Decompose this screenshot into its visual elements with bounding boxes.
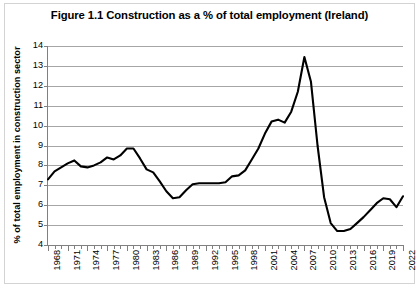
x-axis-tick-label: 2007	[308, 250, 318, 270]
x-axis-minor-tick	[74, 246, 75, 249]
x-axis-minor-tick	[81, 246, 82, 249]
x-axis-major-tick	[186, 246, 187, 251]
x-axis-major-tick	[383, 246, 384, 251]
x-axis-minor-tick	[239, 246, 240, 249]
x-axis-tick-label: 1977	[111, 250, 121, 270]
x-axis-tick-label: 2010	[328, 250, 338, 270]
x-axis-minor-tick	[160, 246, 161, 249]
y-axis-tick-label: 10	[13, 121, 43, 130]
x-axis-major-tick	[107, 246, 108, 251]
y-axis-tick-mark	[44, 146, 48, 147]
x-axis-major-tick	[48, 246, 49, 251]
y-axis-tick-mark	[44, 66, 48, 67]
x-axis-tick-label: 2013	[348, 250, 358, 270]
y-axis-tick-mark	[44, 185, 48, 186]
y-axis-tick-mark	[44, 126, 48, 127]
x-axis-tick-label: 1986	[170, 250, 180, 270]
x-axis-minor-tick	[173, 246, 174, 249]
x-axis-major-tick	[364, 246, 365, 251]
x-axis-major-tick	[226, 246, 227, 251]
y-axis-tick-mark	[44, 165, 48, 166]
x-axis-tick-label: 2019	[387, 250, 397, 270]
x-axis-major-tick	[304, 246, 305, 251]
x-axis-major-tick	[127, 246, 128, 251]
x-axis-tick-label: 1995	[230, 250, 240, 270]
x-axis-minor-tick	[193, 246, 194, 249]
y-axis-tick-label: 12	[13, 81, 43, 90]
x-axis-major-tick	[68, 246, 69, 251]
y-axis-tick-label: 14	[13, 41, 43, 50]
y-axis-tick-mark	[44, 86, 48, 87]
x-axis-minor-tick	[120, 246, 121, 249]
x-axis-minor-tick	[199, 246, 200, 249]
x-axis-minor-tick	[252, 246, 253, 249]
x-axis-tick-label: 2001	[269, 250, 279, 270]
x-axis-major-tick	[265, 246, 266, 251]
data-series-line	[48, 46, 403, 245]
x-axis-minor-tick	[331, 246, 332, 249]
y-axis-tick-label: 8	[13, 160, 43, 169]
x-axis-minor-tick	[133, 246, 134, 249]
x-axis-minor-tick	[140, 246, 141, 249]
y-axis-tick-label: 13	[13, 61, 43, 70]
x-axis-major-tick	[87, 246, 88, 251]
x-axis-minor-tick	[396, 246, 397, 249]
x-axis-tick-label: 1998	[249, 250, 259, 270]
x-axis-minor-tick	[219, 246, 220, 249]
x-axis-minor-tick	[212, 246, 213, 249]
x-axis-minor-tick	[179, 246, 180, 249]
y-axis-tick-mark	[44, 245, 48, 246]
x-axis-major-tick	[147, 246, 148, 251]
y-axis-tick-mark	[44, 46, 48, 47]
x-axis-tick-label: 2016	[368, 250, 378, 270]
chart-figure: Figure 1.1 Construction as a % of total …	[0, 0, 419, 289]
x-axis-tick-label: 1968	[52, 250, 62, 270]
x-axis-tick-label: 1971	[72, 250, 82, 270]
x-axis-minor-tick	[350, 246, 351, 249]
x-axis-tick-label: 1989	[190, 250, 200, 270]
x-axis-major-tick	[245, 246, 246, 251]
x-axis-major-tick	[324, 246, 325, 251]
y-axis-tick-label: 11	[13, 101, 43, 110]
x-axis-minor-tick	[291, 246, 292, 249]
x-axis-minor-tick	[61, 246, 62, 249]
y-axis-tick-label: 5	[13, 220, 43, 229]
x-axis-minor-tick	[311, 246, 312, 249]
x-axis-tick-label: 2004	[289, 250, 299, 270]
x-axis-minor-tick	[337, 246, 338, 249]
y-axis-tick-label: 7	[13, 180, 43, 189]
construction-employment-line	[48, 57, 403, 231]
x-axis-major-tick	[166, 246, 167, 251]
x-axis-minor-tick	[357, 246, 358, 249]
x-axis-major-tick	[206, 246, 207, 251]
y-axis-tick-label: 4	[13, 240, 43, 249]
x-axis-major-tick	[285, 246, 286, 251]
x-axis-tick-label: 1983	[151, 250, 161, 270]
x-axis-tick-label: 1980	[131, 250, 141, 270]
x-axis-minor-tick	[94, 246, 95, 249]
x-axis-minor-tick	[232, 246, 233, 249]
x-axis-minor-tick	[101, 246, 102, 249]
y-axis-tick-label: 6	[13, 200, 43, 209]
x-axis-minor-tick	[153, 246, 154, 249]
x-axis-tick-label: 1974	[91, 250, 101, 270]
y-axis-tick-mark	[44, 106, 48, 107]
x-axis-minor-tick	[377, 246, 378, 249]
y-axis-tick-mark	[44, 205, 48, 206]
x-axis-tick-label: 1992	[210, 250, 220, 270]
x-axis-minor-tick	[318, 246, 319, 249]
x-axis-minor-tick	[55, 246, 56, 249]
page-title: Figure 1.1 Construction as a % of total …	[0, 9, 419, 21]
x-axis-minor-tick	[258, 246, 259, 249]
x-axis-minor-tick	[370, 246, 371, 249]
x-axis-major-tick	[344, 246, 345, 251]
x-axis-minor-tick	[390, 246, 391, 249]
y-axis-tick-labels: 4567891011121314	[10, 0, 43, 289]
x-axis-minor-tick	[298, 246, 299, 249]
y-axis-tick-label: 9	[13, 141, 43, 150]
x-axis-major-tick	[403, 246, 404, 251]
x-axis-minor-tick	[114, 246, 115, 249]
x-axis-tick-label: 2022	[407, 250, 417, 270]
x-axis-minor-tick	[272, 246, 273, 249]
y-axis-tick-mark	[44, 225, 48, 226]
